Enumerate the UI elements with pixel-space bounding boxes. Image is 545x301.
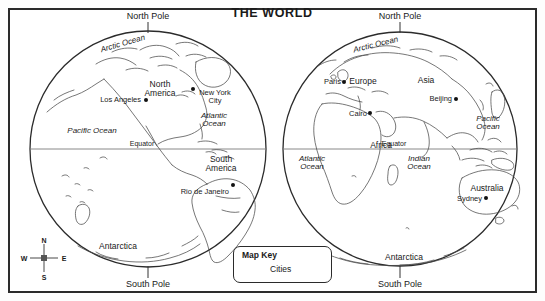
asia-label: Asia [418, 76, 435, 85]
western-hemisphere-globe [30, 22, 266, 278]
city-dot-los-angeles [144, 98, 148, 102]
eastern-hemisphere-globe [283, 22, 520, 278]
city-label-rio-de-janeiro: Rio de Janeiro [181, 188, 229, 196]
city-label-new-york-city: New York City [199, 89, 231, 105]
antarctica-label-east: Antarctica [385, 253, 423, 262]
antarctica-label-west: Antarctica [99, 242, 137, 251]
north-pole-label-east: North Pole [379, 12, 422, 21]
map-key-item-cities: Cities [270, 265, 291, 274]
indian-ocean-label: Indian Ocean [407, 155, 431, 172]
city-label-paris: Paris [324, 78, 341, 86]
north-pole-label-west: North Pole [127, 12, 170, 21]
equator-label-east: Equator [382, 140, 407, 147]
pacific-ocean-label-west: Pacific Ocean [67, 127, 116, 135]
map-key-title: Map Key [242, 251, 277, 260]
atlantic-ocean-label-west: Atlantic Ocean [201, 112, 227, 129]
city-dot-rio-de-janeiro [231, 183, 235, 187]
city-dot-beijing [454, 97, 458, 101]
city-label-sydney: Sydney [457, 195, 482, 203]
map-key-box: Map Key Cities [233, 246, 332, 283]
city-label-cairo: Cairo [349, 110, 367, 118]
compass-rose [30, 244, 58, 272]
city-dot-sydney [484, 196, 488, 200]
city-label-beijing: Beijing [429, 95, 452, 103]
city-label-los-angeles: Los Angeles [100, 96, 141, 104]
south-pole-label-east: South Pole [378, 280, 422, 289]
south-america-label: South America [205, 155, 236, 173]
compass-east-label: E [62, 255, 67, 262]
europe-label: Europe [349, 77, 376, 86]
atlantic-ocean-label-east: Atlantic Ocean [299, 155, 325, 172]
south-pole-label-west: South Pole [126, 280, 170, 289]
north-america-label: North America [144, 80, 175, 98]
city-dot-cairo [368, 111, 372, 115]
compass-west-label: W [21, 255, 28, 262]
world-map-figure: THE WORLD North Pole South Pole Arctic O… [0, 0, 545, 301]
compass-south-label: S [42, 274, 47, 281]
pacific-ocean-label-east: Pacific Ocean [476, 115, 500, 132]
compass-north-label: N [41, 237, 46, 244]
city-dot-new-york-city [191, 87, 195, 91]
city-dot-paris [342, 80, 346, 84]
equator-label-west: Equator [130, 140, 155, 147]
page-title: THE WORLD [231, 7, 312, 20]
australia-label: Australia [470, 184, 503, 193]
